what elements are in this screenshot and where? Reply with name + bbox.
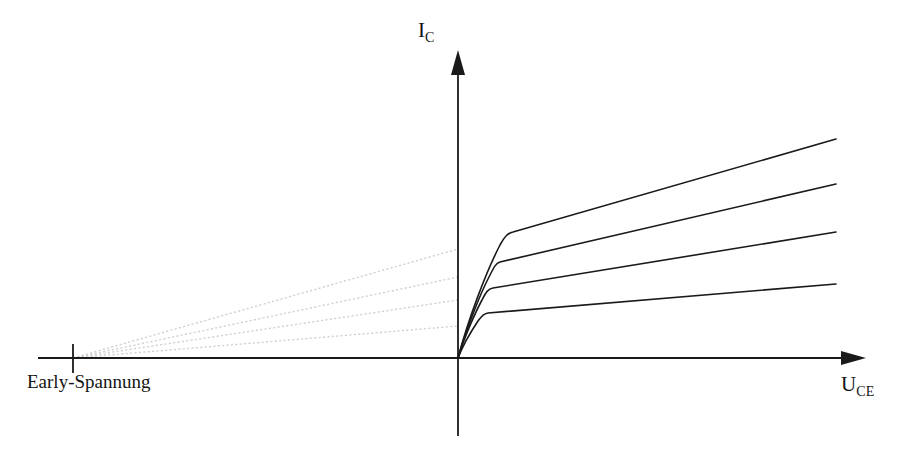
x-axis-label: UCE — [841, 374, 874, 399]
extrapolation-line-1 — [73, 326, 458, 358]
axes-group — [38, 50, 866, 436]
y-axis-arrowhead — [451, 50, 465, 75]
x-axis-label-main: U — [841, 372, 856, 396]
transistor-output-characteristic-figure: IC UCE Early-Spannung — [0, 0, 910, 455]
y-axis-label-subscript: C — [425, 30, 435, 45]
characteristic-curve-2 — [458, 232, 836, 358]
characteristic-curve-1 — [458, 284, 836, 358]
y-axis-label: IC — [418, 20, 435, 45]
early-voltage-extrapolation-lines — [73, 249, 458, 358]
characteristic-curves-group — [458, 139, 836, 358]
extrapolation-line-4 — [73, 249, 458, 358]
x-axis-label-subscript: CE — [856, 384, 874, 399]
x-axis-arrowhead — [841, 351, 866, 365]
characteristic-curve-3 — [458, 184, 836, 358]
characteristic-curve-4 — [458, 139, 836, 358]
y-axis-label-main: I — [418, 18, 425, 42]
early-voltage-label: Early-Spannung — [27, 372, 150, 391]
extrapolation-line-2 — [73, 300, 458, 358]
extrapolation-line-3 — [73, 277, 458, 358]
